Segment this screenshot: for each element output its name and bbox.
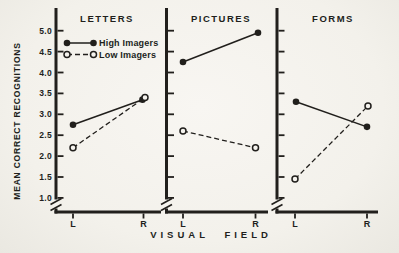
panel-title-forms: FORMS <box>312 13 354 24</box>
figure-canvas <box>0 0 399 253</box>
x-tick-forms-r: R <box>364 219 371 229</box>
legend-marker-low-imagers <box>91 52 97 58</box>
x-tick-pictures-r: R <box>252 219 259 229</box>
series-line-high-imagers <box>296 102 367 127</box>
data-point-high-imagers <box>180 59 187 66</box>
y-tick-label: 2.5 <box>26 130 52 140</box>
x-tick-pictures-l: L <box>180 219 186 229</box>
figure-page: MEAN CORRECT RECOGNITIONS LETTERS PICTUR… <box>0 0 399 253</box>
legend-marker-high-imagers <box>64 40 71 47</box>
legend-label-low-imagers: Low Imagers <box>99 50 156 60</box>
series-line-low-imagers <box>183 131 256 148</box>
y-tick-label: 2.0 <box>26 151 52 161</box>
x-axis-title: VISUAL FIELD <box>150 229 272 240</box>
data-point-high-imagers <box>364 124 371 131</box>
data-point-low-imagers <box>70 145 76 151</box>
data-point-low-imagers <box>292 176 298 182</box>
y-tick-label: 1.5 <box>26 172 52 182</box>
legend-marker-low-imagers <box>64 52 70 58</box>
legend-marker-high-imagers <box>90 40 97 47</box>
y-axis-title: MEAN CORRECT RECOGNITIONS <box>12 42 22 199</box>
y-tick-label: 1.0 <box>26 193 52 203</box>
y-tick-label: 4.5 <box>26 47 52 57</box>
x-tick-letters-r: R <box>140 219 147 229</box>
y-tick-label: 3.5 <box>26 88 52 98</box>
data-point-low-imagers <box>180 128 186 134</box>
data-point-low-imagers <box>365 103 371 109</box>
data-point-high-imagers <box>255 29 262 36</box>
series-line-high-imagers <box>183 33 258 62</box>
x-tick-letters-l: L <box>70 219 76 229</box>
legend-label-high-imagers: High Imagers <box>99 38 158 48</box>
y-tick-label: 5.0 <box>26 26 52 36</box>
data-point-high-imagers <box>293 98 300 105</box>
series-line-high-imagers <box>73 100 143 125</box>
panel-title-letters: LETTERS <box>80 13 134 24</box>
x-tick-forms-l: L <box>292 219 298 229</box>
y-tick-label: 4.0 <box>26 68 52 78</box>
data-point-high-imagers <box>70 121 77 128</box>
data-point-low-imagers <box>253 145 259 151</box>
panel-title-pictures: PICTURES <box>191 13 251 24</box>
series-line-low-imagers <box>73 98 145 148</box>
y-tick-label: 3.0 <box>26 109 52 119</box>
data-point-low-imagers <box>142 95 148 101</box>
series-line-low-imagers <box>295 106 368 179</box>
